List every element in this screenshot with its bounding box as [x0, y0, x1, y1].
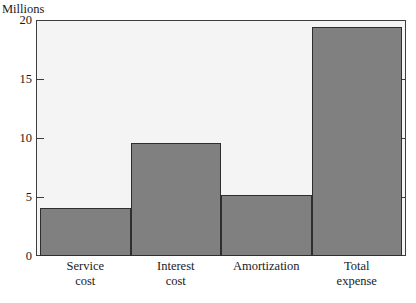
category-label-line: cost	[40, 274, 131, 289]
category-label-line: Interest	[131, 259, 222, 274]
x-axis-category-labels: ServicecostInterestcostAmortizationTotal…	[36, 259, 406, 303]
bar-chart-figure: Millions 05101520 ServicecostInterestcos…	[0, 0, 416, 303]
chart-title	[0, 0, 416, 3]
x-axis-category-label: Totalexpense	[312, 259, 403, 289]
x-axis-category-label: Interestcost	[131, 259, 222, 289]
category-label-line: Amortization	[221, 259, 312, 274]
category-label-line: expense	[312, 274, 403, 289]
bar	[131, 143, 222, 256]
bars-container	[36, 20, 406, 256]
y-axis-tick-label: 20	[2, 14, 32, 26]
bar	[40, 208, 131, 256]
bar	[312, 27, 403, 256]
category-label-line: Total	[312, 259, 403, 274]
bar	[221, 195, 312, 256]
x-axis-category-label: Amortization	[221, 259, 312, 274]
category-label-line: Service	[40, 259, 131, 274]
y-axis-tick-label: 5	[2, 191, 32, 203]
category-label-line: cost	[131, 274, 222, 289]
y-axis-tick-label: 10	[2, 132, 32, 144]
y-axis-tick-label: 15	[2, 73, 32, 85]
x-axis-category-label: Servicecost	[40, 259, 131, 289]
y-axis-tick-label: 0	[2, 250, 32, 262]
